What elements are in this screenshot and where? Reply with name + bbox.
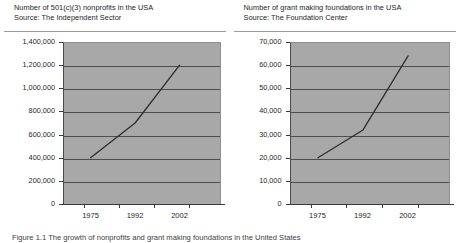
panel-title: Number of grant making foundations in th… [244, 3, 456, 13]
y-axis-tick [286, 111, 290, 112]
y-axis-tick [286, 135, 290, 136]
y-axis-tick [286, 42, 290, 43]
plot-container: 010,00020,00030,00040,00050,00060,00070,… [230, 42, 459, 227]
chart-panel-foundations: Number of grant making foundations in th… [230, 0, 459, 243]
title-divider [4, 31, 226, 32]
y-axis-tick [286, 88, 290, 89]
y-axis-tick [59, 135, 63, 136]
series-line-chart [230, 42, 459, 227]
y-axis-tick [59, 42, 63, 43]
y-axis-tick [286, 204, 290, 205]
chart-panel-nonprofits: Number of 501(c)(3) nonprofits in the US… [0, 0, 230, 243]
panel-source: Source: The Foundation Center [244, 13, 456, 23]
series-line-chart [0, 42, 230, 227]
y-axis-tick [59, 158, 63, 159]
data-line [91, 65, 180, 158]
y-axis-tick [59, 88, 63, 89]
panel-source: Source: The Independent Sector [14, 13, 226, 23]
y-axis-tick [59, 181, 63, 182]
y-axis-tick [59, 111, 63, 112]
figure-two-line-charts: Number of 501(c)(3) nonprofits in the US… [0, 0, 459, 243]
y-axis-tick [286, 181, 290, 182]
data-line [317, 56, 407, 158]
y-axis-tick [59, 65, 63, 66]
panel-title: Number of 501(c)(3) nonprofits in the US… [14, 3, 226, 13]
figure-caption: Figure 1.1 The growth of nonprofits and … [12, 233, 452, 243]
y-axis-tick [59, 204, 63, 205]
plot-container: 0200,000400,000600,000800,0001,000,0001,… [0, 42, 230, 227]
panel-heading-group: Number of 501(c)(3) nonprofits in the US… [14, 3, 226, 24]
y-axis-tick [286, 158, 290, 159]
panel-heading-group: Number of grant making foundations in th… [244, 3, 456, 24]
y-axis-tick [286, 65, 290, 66]
title-divider [234, 31, 456, 32]
